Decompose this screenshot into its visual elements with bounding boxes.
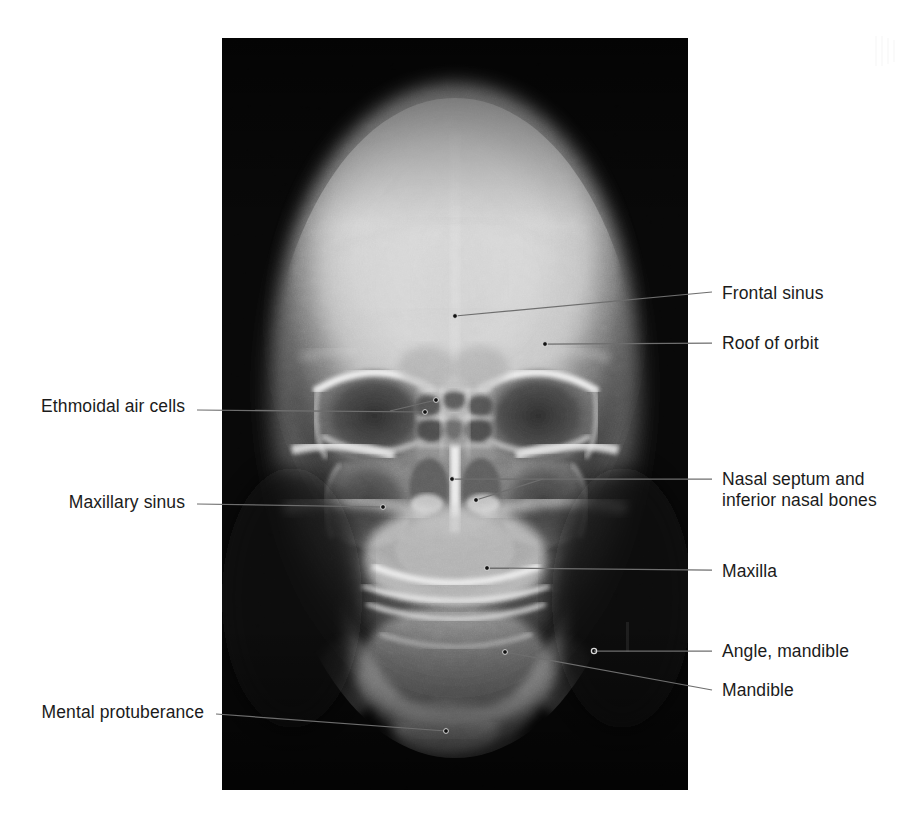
radiograph-image — [222, 38, 688, 790]
page-corner-mark — [872, 34, 898, 68]
label-mental-protuberance[interactable]: Mental protuberance — [0, 702, 204, 723]
label-maxillary-sinus[interactable]: Maxillary sinus — [0, 492, 185, 513]
label-angle-mandible[interactable]: Angle, mandible — [722, 641, 849, 662]
label-maxilla[interactable]: Maxilla — [722, 561, 777, 582]
label-ethmoidal-air-cells[interactable]: Ethmoidal air cells — [0, 396, 185, 417]
label-frontal-sinus[interactable]: Frontal sinus — [722, 283, 823, 304]
figure-root: Frontal sinus Roof of orbit Ethmoidal ai… — [0, 0, 912, 833]
radiograph-film — [222, 38, 688, 790]
label-mandible[interactable]: Mandible — [722, 680, 794, 701]
label-nasal-septum-and-inferior-nasal-bones[interactable]: Nasal septum and inferior nasal bones — [722, 469, 877, 511]
label-roof-of-orbit[interactable]: Roof of orbit — [722, 333, 819, 354]
